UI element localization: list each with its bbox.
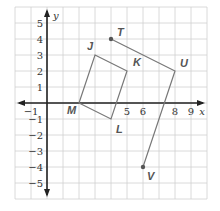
- y-tick-label: 3: [37, 50, 43, 61]
- vertex-label-m: M: [67, 104, 77, 116]
- y-tick-label: −5: [28, 178, 43, 189]
- y-tick-label: 5: [37, 18, 43, 29]
- coordinate-plane: −1568954321−1−2−3−4−5xy JKLMTUV: [0, 0, 220, 211]
- vertex-dot-v: [141, 165, 145, 169]
- vertex-label-u: U: [180, 57, 189, 69]
- vertex-label-v: V: [147, 170, 156, 182]
- y-axis-down-arrow-icon: [44, 189, 50, 197]
- y-tick-label: −2: [28, 130, 43, 141]
- y-tick-label: −3: [28, 146, 43, 157]
- vertex-dot-t: [109, 37, 113, 41]
- y-tick-label: 2: [37, 66, 43, 77]
- vertex-label-t: T: [117, 26, 125, 38]
- x-axis-label: x: [199, 106, 205, 117]
- y-tick-label: −4: [28, 162, 43, 173]
- vertex-label-l: L: [116, 123, 123, 135]
- vertex-label-k: K: [133, 56, 142, 68]
- vertex-labels: JKLMTUV: [67, 26, 189, 182]
- x-tick-label: 6: [140, 106, 146, 117]
- y-axis-up-arrow-icon: [44, 9, 50, 17]
- y-axis-label: y: [52, 10, 59, 21]
- x-tick-label: 9: [188, 106, 194, 117]
- x-tick-label: 5: [124, 106, 130, 117]
- x-tick-label: 8: [172, 106, 178, 117]
- y-tick-label: −1: [28, 114, 43, 125]
- tick-labels: −1568954321−1−2−3−4−5xy: [24, 10, 206, 189]
- y-tick-label: 1: [37, 82, 43, 93]
- vertex-label-j: J: [87, 40, 94, 52]
- y-tick-label: 4: [37, 34, 43, 45]
